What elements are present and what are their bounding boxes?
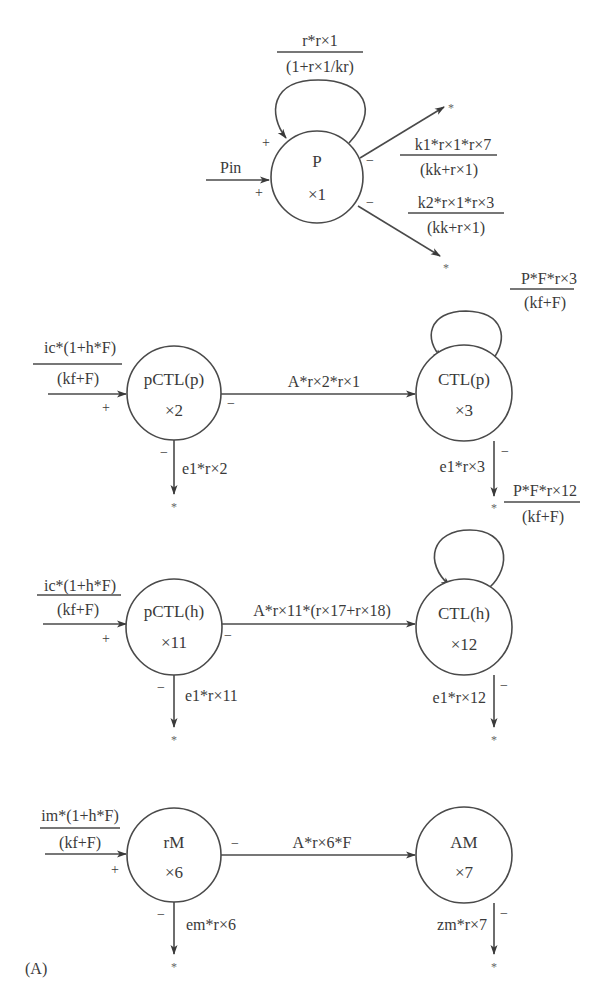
- ctlp-self-loop-denominator: (kf+F): [524, 294, 566, 312]
- node-rm: [127, 808, 221, 902]
- p-self-loop-denominator: (1+r×1/kr): [286, 58, 354, 76]
- node-rm-name: rM: [164, 833, 185, 852]
- node-pctl-h-var: ×11: [161, 633, 187, 652]
- node-ctl-p-var: ×3: [455, 401, 473, 420]
- node-ctl-p-name: CTL(p): [438, 370, 490, 389]
- pctlp-to-ctlp-label: A*r×2*r×1: [288, 373, 360, 390]
- sign-minus: −: [224, 628, 232, 643]
- sign-minus: −: [366, 153, 374, 168]
- row-macrophage: im*(1+h*F) (kf+F) + rM ×6 − A*r×6*F + − …: [25, 807, 512, 978]
- node-pctl-p: [127, 346, 221, 440]
- sign-minus: −: [157, 680, 165, 695]
- sink-symbol: *: [448, 101, 454, 115]
- node-p-group: r*r×1 (1+r×1/kr) + Pin + P ×1 * − k1*r×1…: [206, 32, 504, 275]
- node-am: [416, 807, 512, 903]
- p-self-loop-numerator: r*r×1: [302, 32, 338, 49]
- pctlp-inflow-denominator: (kf+F): [57, 370, 99, 388]
- pctlp-inflow-numerator: ic*(1+h*F): [44, 339, 116, 357]
- sink-symbol: *: [171, 500, 177, 514]
- rm-to-am-label: A*r×6*F: [293, 834, 352, 851]
- rm-outflow-label: em*r×6: [186, 916, 236, 933]
- sign-minus: −: [160, 445, 168, 460]
- sign-minus: −: [157, 907, 165, 922]
- compartment-diagram: r*r×1 (1+r×1/kr) + Pin + P ×1 * − k1*r×1…: [0, 0, 609, 1007]
- sink-symbol: *: [491, 733, 497, 747]
- ctlp-self-loop-numerator: P*F*r×3: [521, 270, 577, 287]
- node-rm-var: ×6: [165, 863, 183, 882]
- node-pctl-h: [126, 579, 222, 675]
- sink-symbol: *: [171, 960, 177, 974]
- p-outflow-1-denominator: (kk+r×1): [420, 161, 478, 179]
- rm-inflow-numerator: im*(1+h*F): [41, 807, 118, 825]
- sign-plus: +: [255, 185, 263, 200]
- node-p-var: ×1: [308, 185, 326, 204]
- panel-label: (A): [25, 960, 47, 978]
- node-pctl-h-name: pCTL(h): [144, 602, 204, 621]
- ctlh-outflow-label: e1*r×12: [433, 689, 486, 706]
- node-am-name: AM: [450, 833, 477, 852]
- node-ctl-h-name: CTL(h): [438, 604, 490, 623]
- sign-plus: +: [102, 631, 110, 646]
- pctlp-outflow-label: e1*r×2: [182, 460, 227, 477]
- node-pctl-p-var: ×2: [165, 401, 183, 420]
- sink-symbol: *: [171, 733, 177, 747]
- pctlh-outflow-label: e1*r×11: [185, 687, 238, 704]
- ctlp-outflow-label: e1*r×3: [440, 458, 485, 475]
- sign-plus: +: [102, 400, 110, 415]
- row-ctl-p: ic*(1+h*F) (kf+F) + pCTL(p) ×2 − A*r×2*r…: [33, 270, 577, 515]
- sign-minus: −: [501, 444, 509, 459]
- ctlh-self-loop-numerator: P*F*r×12: [513, 482, 577, 499]
- sign-minus: −: [500, 906, 508, 921]
- sign-minus: −: [227, 396, 235, 411]
- p-inflow-label: Pin: [220, 159, 241, 176]
- node-pctl-p-name: pCTL(p): [144, 370, 204, 389]
- node-p: [271, 131, 363, 223]
- node-ctl-h: [416, 579, 512, 675]
- sign-plus: +: [111, 862, 119, 877]
- sink-symbol: *: [443, 261, 449, 275]
- node-p-name: P: [312, 152, 321, 171]
- row-ctl-h: P*F*r×12 (kf+F) ic*(1+h*F) (kf+F) + pCTL…: [37, 482, 580, 747]
- node-am-var: ×7: [455, 863, 474, 882]
- ctlh-self-loop-denominator: (kf+F): [522, 508, 564, 526]
- node-ctl-h-var: ×12: [451, 635, 478, 654]
- sign-plus: +: [262, 135, 270, 150]
- sign-minus: −: [500, 678, 508, 693]
- sink-symbol: *: [491, 960, 497, 974]
- p-outflow-1-numerator: k1*r×1*r×7: [415, 136, 492, 153]
- am-outflow-label: zm*r×7: [437, 916, 487, 933]
- pctlh-inflow-numerator: ic*(1+h*F): [44, 577, 116, 595]
- rm-inflow-denominator: (kf+F): [59, 834, 101, 852]
- pctlh-to-ctlh-label: A*r×11*(r×17+r×18): [253, 602, 391, 620]
- p-outflow-2-numerator: k2*r×1*r×3: [418, 194, 495, 211]
- node-ctl-p: [416, 345, 512, 441]
- sign-minus: −: [231, 836, 239, 851]
- sign-minus: −: [366, 195, 374, 210]
- pctlh-inflow-denominator: (kf+F): [57, 601, 99, 619]
- p-outflow-2-denominator: (kk+r×1): [427, 219, 485, 237]
- sink-symbol: *: [491, 501, 497, 515]
